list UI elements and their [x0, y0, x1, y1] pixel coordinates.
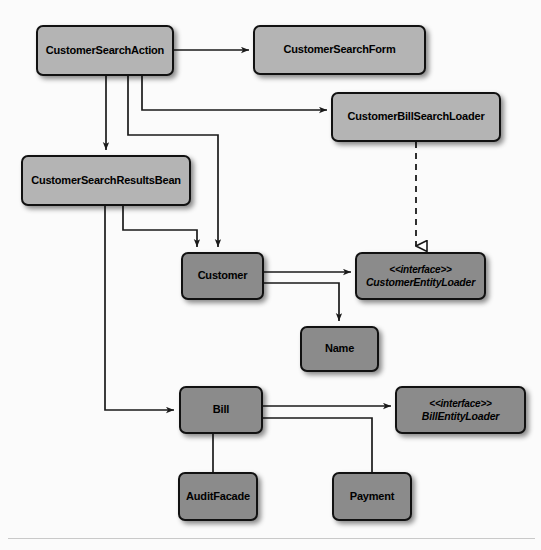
uml-class-diagram: CustomerSearchAction CustomerSearchForm … [0, 0, 541, 550]
edge-results-bean-to-bill [105, 206, 174, 410]
node-bill-entity-loader[interactable]: <<interface>> BillEntityLoader [395, 386, 526, 434]
node-label: CustomerSearchAction [42, 44, 168, 58]
node-customer-search-results-bean[interactable]: CustomerSearchResultsBean [21, 155, 191, 206]
node-label: AuditFacade [184, 490, 252, 504]
node-label: BillEntityLoader [401, 410, 520, 424]
interface-stereotype: <<interface>> [361, 263, 480, 276]
node-customer-search-action[interactable]: CustomerSearchAction [36, 25, 174, 76]
edge-results-bean-to-customer [123, 206, 197, 247]
edge-action-to-bill-search-loader [142, 76, 327, 110]
edge-customer-to-name [264, 283, 339, 321]
node-label: CustomerSearchForm [259, 43, 420, 57]
bottom-divider [8, 538, 535, 539]
node-payment[interactable]: Payment [332, 472, 412, 521]
node-label: CustomerBillSearchLoader [337, 110, 495, 124]
node-customer-search-form[interactable]: CustomerSearchForm [253, 25, 426, 75]
node-customer[interactable]: Customer [181, 252, 264, 300]
node-audit-facade[interactable]: AuditFacade [178, 472, 258, 521]
node-label: Payment [338, 490, 406, 504]
node-label: Bill [185, 403, 257, 417]
node-label: Customer [187, 269, 258, 283]
interface-stereotype: <<interface>> [401, 397, 520, 410]
node-bill[interactable]: Bill [179, 386, 263, 434]
node-label: CustomerSearchResultsBean [27, 174, 185, 188]
node-label: Name [306, 342, 373, 356]
node-name[interactable]: Name [300, 326, 379, 372]
node-customer-entity-loader[interactable]: <<interface>> CustomerEntityLoader [355, 252, 486, 300]
edge-bill-to-payment [263, 418, 372, 472]
node-customer-bill-search-loader[interactable]: CustomerBillSearchLoader [331, 92, 501, 142]
node-label: CustomerEntityLoader [361, 276, 480, 290]
